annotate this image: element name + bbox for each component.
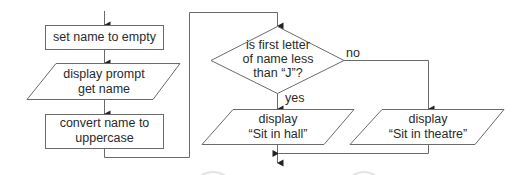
- set-name-text: set name to empty: [53, 30, 156, 44]
- display-theatre-label: display “Sit in theatre”: [367, 112, 489, 142]
- display-hall-label: display “Sit in hall”: [218, 112, 338, 142]
- set-name-label: set name to empty: [45, 30, 164, 45]
- decision-label: is first letter of name less than “J”?: [228, 38, 328, 80]
- convert-line1: convert name to: [45, 116, 164, 131]
- theatre-line1: display: [367, 112, 489, 127]
- flowchart-canvas: set name to empty display prompt get nam…: [0, 0, 524, 175]
- cropped-artifacts: [200, 172, 376, 175]
- hall-line2: “Sit in hall”: [218, 127, 338, 142]
- theatre-line2: “Sit in theatre”: [367, 127, 489, 142]
- hall-line1: display: [218, 112, 338, 127]
- convert-line2: uppercase: [45, 131, 164, 146]
- merge-connector: [279, 145, 429, 154]
- no-label: no: [346, 46, 360, 60]
- convert-name-label: convert name to uppercase: [45, 116, 164, 146]
- no-arrow: [344, 61, 429, 110]
- display-prompt-line1: display prompt: [40, 67, 168, 82]
- decision-line2: of name less: [228, 52, 328, 66]
- decision-line3: than “J”?: [228, 66, 328, 80]
- decision-line1: is first letter: [228, 38, 328, 52]
- display-prompt-line2: get name: [40, 82, 168, 97]
- yes-label: yes: [285, 91, 304, 105]
- display-prompt-label: display prompt get name: [40, 67, 168, 97]
